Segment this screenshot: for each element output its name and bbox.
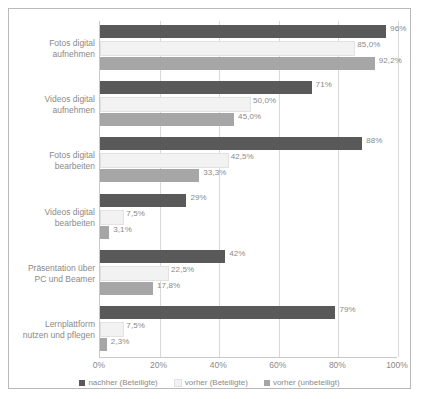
legend-label: vorher (unbeteiligt)	[273, 378, 340, 387]
bar	[100, 194, 186, 207]
bar-row: 85,0%	[100, 41, 397, 54]
bar	[100, 338, 107, 351]
bar-value-label: 3,1%	[113, 225, 132, 234]
x-axis-tick: 20%	[150, 360, 167, 370]
bar-row: 88%	[100, 137, 397, 150]
bar-value-label: 45,0%	[238, 112, 261, 121]
bar-value-label: 7,5%	[126, 321, 145, 330]
bar-value-label: 42%	[229, 249, 245, 258]
category-label: Präsentation über PC und Beamer	[9, 263, 95, 285]
bar	[100, 25, 386, 38]
bar-value-label: 7,5%	[126, 209, 145, 218]
legend-swatch	[264, 380, 270, 386]
bar-row: 96%	[100, 25, 397, 38]
bar-row: 92,2%	[100, 57, 397, 70]
legend-label: vorher (Beteiligte)	[185, 378, 248, 387]
bar	[100, 226, 109, 239]
bar-row: 45,0%	[100, 113, 397, 126]
bar-value-label: 22,5%	[171, 265, 194, 274]
bar-value-label: 17,8%	[157, 281, 180, 290]
x-axis: 0%20%40%60%80%100%	[99, 360, 397, 374]
plot-area: 96%85,0%92,2%71%50,0%45,0%88%42,5%33,3%2…	[99, 21, 397, 358]
bar-group: 29%7,5%3,1%	[100, 190, 397, 246]
legend-swatch	[174, 379, 182, 387]
legend-item[interactable]: vorher (unbeteiligt)	[264, 378, 340, 387]
gridline-100	[398, 21, 399, 357]
bar	[100, 57, 375, 70]
bar-row: 17,8%	[100, 282, 397, 295]
bar	[100, 113, 234, 126]
bar-value-label: 92,2%	[379, 56, 402, 65]
bar-value-label: 29%	[190, 193, 206, 202]
legend-item[interactable]: vorher (Beteiligte)	[174, 378, 248, 387]
bar-row: 2,3%	[100, 338, 397, 351]
bar-group: 42%22,5%17,8%	[100, 246, 397, 302]
bar-row: 42,5%	[100, 153, 397, 166]
chart-frame: 96%85,0%92,2%71%50,0%45,0%88%42,5%33,3%2…	[8, 8, 411, 389]
bar-row: 33,3%	[100, 169, 397, 182]
bar-row: 42%	[100, 250, 397, 263]
bar-value-label: 2,3%	[111, 337, 130, 346]
bar-group: 71%50,0%45,0%	[100, 77, 397, 133]
bar	[100, 97, 251, 112]
bar	[100, 137, 362, 150]
bar	[100, 210, 124, 225]
category-label: Fotos digital aufnehmen	[9, 38, 95, 60]
bar	[100, 250, 225, 263]
x-axis-tick: 80%	[329, 360, 346, 370]
category-label: Videos digital aufnehmen	[9, 94, 95, 116]
x-axis-tick: 100%	[386, 360, 408, 370]
bar	[100, 153, 229, 168]
bar	[100, 306, 335, 319]
bar-group: 88%42,5%33,3%	[100, 133, 397, 189]
bar	[100, 169, 199, 182]
bar-row: 50,0%	[100, 97, 397, 110]
category-label: Fotos digital bearbeiten	[9, 150, 95, 172]
x-axis-tick: 0%	[93, 360, 105, 370]
bar-value-label: 96%	[390, 24, 406, 33]
bar-row: 22,5%	[100, 266, 397, 279]
bar	[100, 266, 169, 281]
category-label: Videos digital bearbeiten	[9, 207, 95, 229]
bar-row: 79%	[100, 306, 397, 319]
bar-value-label: 42,5%	[231, 152, 254, 161]
x-axis-tick: 40%	[210, 360, 227, 370]
legend-item[interactable]: nachher (Beteiligte)	[79, 378, 157, 387]
bar-value-label: 88%	[366, 136, 382, 145]
legend-swatch	[79, 380, 85, 386]
category-label: Lernplattform nutzen und pflegen	[9, 319, 95, 341]
bar-row: 3,1%	[100, 226, 397, 239]
bar-value-label: 79%	[339, 305, 355, 314]
bar	[100, 322, 124, 337]
bar-row: 71%	[100, 81, 397, 94]
bar-row: 7,5%	[100, 322, 397, 335]
bar-group: 79%7,5%2,3%	[100, 302, 397, 358]
bar	[100, 81, 312, 94]
bar-value-label: 85,0%	[357, 40, 380, 49]
bar-group: 96%85,0%92,2%	[100, 21, 397, 77]
bar	[100, 282, 153, 295]
legend-label: nachher (Beteiligte)	[88, 378, 157, 387]
bar-value-label: 33,3%	[203, 168, 226, 177]
bar-row: 29%	[100, 194, 397, 207]
bar-row: 7,5%	[100, 210, 397, 223]
bar-value-label: 50,0%	[253, 96, 276, 105]
chart-legend: nachher (Beteiligte)vorher (Beteiligte)v…	[9, 378, 410, 387]
bar-value-label: 71%	[316, 80, 332, 89]
bar	[100, 41, 355, 56]
x-axis-tick: 60%	[269, 360, 286, 370]
